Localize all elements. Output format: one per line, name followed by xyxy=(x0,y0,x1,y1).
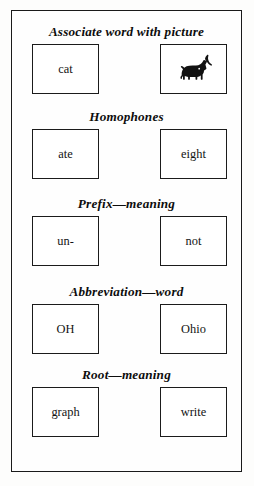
word-card-left[interactable]: ate xyxy=(32,129,99,179)
card-pair: un- not xyxy=(12,216,241,266)
card-pair: OH Ohio xyxy=(12,304,241,354)
card-pair: ate eight xyxy=(12,129,241,179)
word-card-left[interactable]: un- xyxy=(32,216,99,266)
card-pair: graph write xyxy=(12,387,241,437)
card-label: cat xyxy=(58,63,72,75)
word-card-left[interactable]: OH xyxy=(32,304,99,354)
exercise-row: Homophones ate eight xyxy=(12,110,241,179)
row-heading: Root—meaning xyxy=(12,368,241,381)
word-card-right[interactable]: Ohio xyxy=(160,304,227,354)
card-label: OH xyxy=(57,323,75,335)
word-card-right[interactable]: not xyxy=(160,216,227,266)
scanned-page: Associate word with picture cat Homophon… xyxy=(0,0,254,486)
row-heading: Associate word with picture xyxy=(12,25,241,38)
row-heading: Prefix—meaning xyxy=(12,197,241,210)
worksheet-frame: Associate word with picture cat Homophon… xyxy=(11,10,242,472)
card-label: graph xyxy=(51,406,79,418)
card-label: Ohio xyxy=(181,323,206,335)
word-card-left[interactable]: cat xyxy=(32,44,99,94)
row-heading: Homophones xyxy=(12,110,241,123)
picture-card-right[interactable] xyxy=(160,44,227,94)
word-card-left[interactable]: graph xyxy=(32,387,99,437)
card-label: write xyxy=(181,406,206,418)
card-pair: cat xyxy=(12,44,241,94)
exercise-row: Prefix—meaning un- not xyxy=(12,197,241,266)
exercise-row: Root—meaning graph write xyxy=(12,368,241,437)
card-label: not xyxy=(186,235,202,247)
cat-silhouette-icon xyxy=(174,54,214,84)
exercise-row: Associate word with picture cat xyxy=(12,25,241,94)
exercise-row: Abbreviation—word OH Ohio xyxy=(12,285,241,354)
card-label: ate xyxy=(58,148,72,160)
card-label: un- xyxy=(57,235,74,247)
word-card-right[interactable]: eight xyxy=(160,129,227,179)
card-label: eight xyxy=(181,148,206,160)
word-card-right[interactable]: write xyxy=(160,387,227,437)
row-heading: Abbreviation—word xyxy=(12,285,241,298)
